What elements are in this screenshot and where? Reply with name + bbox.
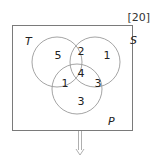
down-arrow-icon [76,131,84,155]
region-t-and-s-only: 2 [78,45,85,58]
region-p-only: 3 [78,95,85,108]
total-label: [20] [127,11,150,24]
set-s-label: S [130,34,137,47]
venn-diagram: [20] T S P 5 2 1 4 1 3 3 [0,0,158,160]
set-p-label: P [108,115,115,128]
set-t-label: T [25,35,33,48]
region-t-only: 5 [55,49,62,62]
region-t-and-p-only: 1 [62,77,69,90]
set-t-circle [32,37,82,87]
region-t-s-p: 4 [78,67,85,80]
region-s-and-p-only: 3 [95,77,102,90]
region-s-only: 1 [104,49,111,62]
